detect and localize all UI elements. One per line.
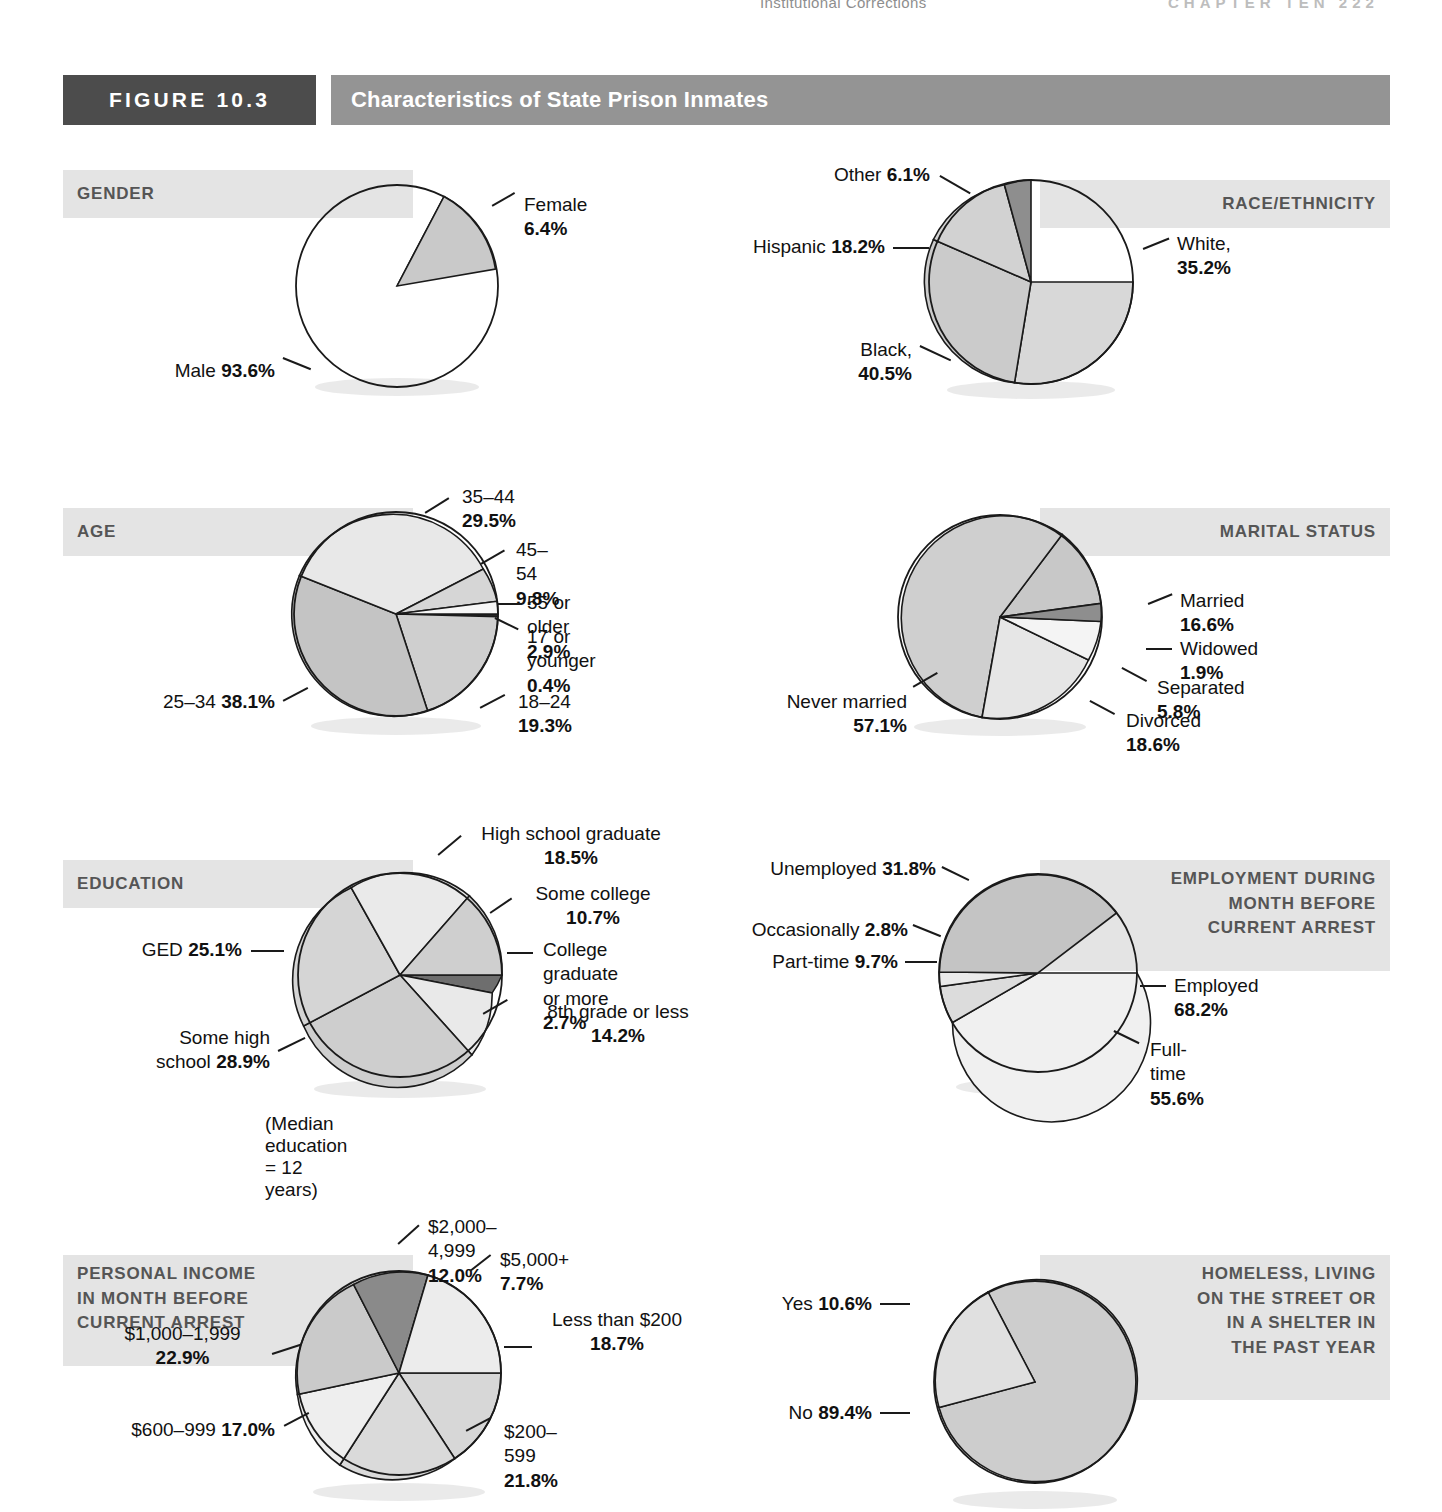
pie-shadow — [311, 717, 481, 735]
leader-homeless-no — [880, 1412, 910, 1414]
pie-chart-gender — [287, 172, 507, 402]
pie-chart-age — [278, 498, 518, 738]
pie-svg-income — [278, 1252, 528, 1504]
section-label-homeless: HOMELESS, LIVING ON THE STREET OR IN A S… — [1197, 1262, 1376, 1361]
callout-edu-some-hs: Some highschool 28.9% — [100, 1026, 270, 1075]
callout-emp-employed: Employed 68.2% — [1174, 974, 1259, 1023]
pie-svg-race — [918, 160, 1148, 405]
pie-slice-white — [1015, 282, 1134, 384]
figure-title: Characteristics of State Prison Inmates — [351, 87, 768, 113]
callout-age-18-24: 18–24 19.3% — [518, 690, 572, 739]
callout-income-600-999: $600–999 17.0% — [110, 1418, 275, 1442]
callout-emp-occasionally: Occasionally 2.8% — [750, 918, 908, 942]
leader-college-grad — [507, 952, 533, 954]
pie-svg-education — [278, 853, 528, 1103]
figure-number-box: FIGURE 10.3 — [63, 75, 316, 125]
callout-income-1000-1999: $1,000–1,99922.9% — [95, 1322, 270, 1371]
figure-header: FIGURE 10.3 Characteristics of State Pri… — [63, 75, 1390, 125]
pie-slice-female — [397, 197, 496, 287]
pie-chart-homeless — [925, 1260, 1150, 1510]
callout-marital-married: Married 16.6% — [1180, 589, 1244, 638]
callout-edu-ged: GED 25.1% — [100, 938, 242, 962]
callout-edu-8th-grade: 8th grade or less14.2% — [518, 1000, 718, 1049]
callout-emp-part-time: Part-time 9.7% — [750, 950, 898, 974]
callout-race-hispanic: Hispanic 18.2% — [690, 235, 885, 259]
callout-income-2000-4999: $2,000–4,999 12.0% — [428, 1215, 497, 1288]
section-label-education: EDUCATION — [77, 872, 184, 897]
pie-svg-marital — [880, 497, 1120, 742]
leader-married — [1148, 593, 1173, 604]
callout-emp-unemployed: Unemployed 31.8% — [760, 857, 936, 881]
callout-income-200-599: $200–599 21.8% — [504, 1420, 558, 1493]
callout-race-other: Other 6.1% — [790, 163, 930, 187]
leader-separated — [1122, 667, 1147, 682]
pie-shadow — [313, 1483, 485, 1501]
pie-chart-education — [278, 853, 528, 1103]
callout-gender-male: Male 93.6% — [120, 359, 275, 383]
section-label-age: AGE — [77, 520, 116, 545]
figure-title-band: Characteristics of State Prison Inmates — [331, 75, 1390, 125]
pie-svg-homeless — [925, 1260, 1150, 1510]
running-head-left: Institutional Corrections — [760, 0, 927, 11]
pie-shadow — [953, 1491, 1117, 1509]
callout-homeless-no: No 89.4% — [740, 1401, 872, 1425]
pie-shadow — [914, 718, 1086, 736]
section-label-race: RACE/ETHNICITY — [1222, 192, 1376, 217]
figure-number-label: FIGURE 10.3 — [109, 88, 270, 112]
pie-chart-income — [278, 1252, 528, 1504]
pie-chart-employment — [928, 855, 1153, 1100]
section-label-employment: EMPLOYMENT DURING MONTH BEFORE CURRENT A… — [1171, 867, 1376, 941]
leader-hispanic — [893, 247, 929, 249]
leader-widowed — [1146, 648, 1172, 650]
callout-age-25-34: 25–34 38.1% — [120, 690, 275, 714]
callout-age-35-44: 35–44 29.5% — [462, 485, 516, 534]
pie-svg-gender — [287, 172, 507, 402]
callout-edu-hs-grad: High school graduate18.5% — [452, 822, 690, 871]
leader-part-time — [905, 961, 937, 963]
leader-income-2000 — [397, 1224, 419, 1244]
callout-marital-divorced: Divorced 18.6% — [1126, 709, 1201, 758]
leader-homeless-yes — [880, 1303, 910, 1305]
callout-income-less-200: Less than $20018.7% — [527, 1308, 707, 1357]
leader-ged — [251, 950, 284, 952]
running-head-right: CHAPTER TEN 222 — [1168, 0, 1379, 11]
pie-svg-employment — [928, 855, 1153, 1100]
leader-employed — [1140, 985, 1166, 987]
section-label-marital: MARITAL STATUS — [1220, 520, 1376, 545]
callout-emp-full-time: Full-time 55.6% — [1150, 1038, 1204, 1111]
pie-chart-marital — [880, 497, 1120, 742]
callout-age-17-younger: 17 or younger 0.4% — [527, 625, 596, 698]
callout-income-5000-plus: $5,000+ 7.7% — [500, 1248, 569, 1297]
callout-race-black: Black,40.5% — [780, 338, 912, 387]
pie-svg-age — [278, 498, 518, 738]
leader-age-55-plus — [497, 603, 521, 605]
section-label-gender: GENDER — [77, 182, 155, 207]
callout-homeless-yes: Yes 10.6% — [740, 1292, 872, 1316]
callout-marital-never: Never married 57.1% — [735, 690, 907, 739]
callout-race-white: White,35.2% — [1177, 232, 1231, 281]
callout-gender-female: Female 6.4% — [524, 193, 587, 242]
pie-chart-race — [918, 160, 1148, 405]
callout-edu-some-college: Some college10.7% — [500, 882, 686, 931]
education-footnote: (Median education = 12 years) — [265, 1113, 347, 1201]
